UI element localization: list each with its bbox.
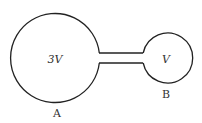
vessel-b-name-label: B xyxy=(162,88,170,101)
vessel-a-name-label: A xyxy=(53,107,61,120)
connected-vessels-diagram xyxy=(0,0,202,123)
vessel-b-volume-label: V xyxy=(162,53,170,66)
vessel-a-volume-label: 3V xyxy=(48,53,63,66)
